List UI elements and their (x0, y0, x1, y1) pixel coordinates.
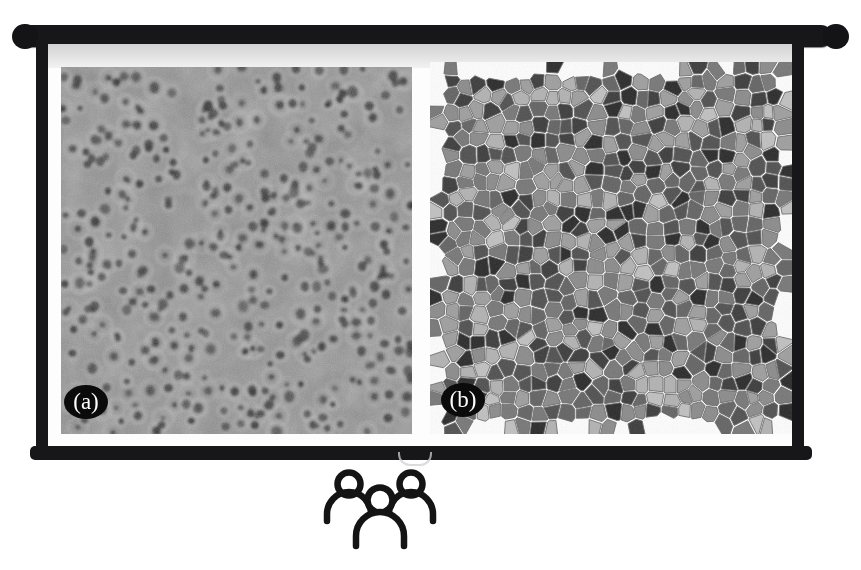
grain-cell (719, 174, 736, 190)
screen-rail-right (792, 40, 804, 453)
person-body-center (356, 512, 404, 546)
figure-panel-b (430, 62, 792, 434)
grain-cell (618, 274, 634, 291)
grain-cell (747, 230, 762, 244)
grain-cell (780, 177, 792, 192)
voronoi-grain-map-b (430, 62, 792, 434)
screen-pull-handle[interactable] (398, 452, 432, 466)
grain-cell (489, 403, 500, 418)
panel-label-a: (a) (64, 385, 108, 419)
grain-cell (664, 375, 676, 393)
grain-cell (515, 390, 529, 407)
grain-cell (590, 208, 605, 219)
grain-cell (679, 403, 691, 418)
grain-cell (747, 217, 762, 232)
screen-roller-cap-right (823, 24, 849, 49)
grain-cell (486, 329, 500, 348)
grain-cell (516, 274, 530, 289)
grain-cell (602, 176, 620, 193)
grain-cell (605, 118, 619, 135)
grain-cell (516, 262, 530, 274)
grain-cell (531, 133, 545, 149)
grain-cell (545, 75, 561, 90)
grain-cell (709, 273, 722, 290)
grain-cell (518, 306, 530, 323)
grain-cell (649, 376, 663, 392)
grain-cell (751, 92, 767, 106)
grain-cell (764, 104, 773, 119)
grain-cell (637, 91, 648, 108)
grain-cell (646, 165, 662, 179)
grain-cell (444, 62, 457, 75)
grain-cell (473, 323, 488, 335)
grain-cell (649, 336, 663, 349)
grain-cell (487, 301, 504, 317)
grain-cell (750, 349, 761, 365)
panel-label-b: (b) (441, 383, 485, 417)
grain-cell (574, 260, 587, 272)
grain-cell (752, 119, 763, 132)
figure-panel-a (61, 67, 412, 434)
grain-cell (531, 289, 547, 309)
grain-cell (751, 107, 762, 119)
grain-cell (692, 76, 704, 88)
grain-cell (587, 275, 603, 290)
grain-cell (733, 201, 748, 216)
grain-cell (443, 177, 458, 194)
grain-cell (560, 119, 571, 133)
grain-cell (648, 91, 660, 107)
grain-cell (504, 231, 519, 245)
grain-cell (489, 148, 502, 160)
grain-cell (749, 203, 763, 219)
grain-cell (647, 236, 664, 249)
screenshot-root: (a) (b) (0, 0, 861, 570)
grain-cell (710, 377, 722, 390)
three-people-icon (318, 468, 448, 558)
grain-cell (703, 389, 719, 406)
grain-cell (577, 192, 592, 207)
grain-cell (502, 404, 518, 419)
grain-cell (665, 233, 681, 245)
grain-cell (721, 278, 737, 293)
grain-cell (763, 119, 775, 131)
projector-screen: (a) (b) (0, 0, 861, 480)
grain-cell (530, 274, 545, 289)
grain-cell (516, 180, 536, 194)
grain-cell (472, 348, 485, 363)
grain-cell (500, 392, 515, 403)
screen-roller-cap-left (12, 24, 38, 49)
grain-cell (735, 90, 751, 105)
grain-cell (533, 117, 549, 132)
grain-cell (515, 289, 532, 307)
grain-cell (647, 222, 663, 235)
grain-cell (477, 278, 487, 291)
grain-cell (548, 120, 561, 134)
grain-cell (473, 292, 490, 305)
grain-cell (546, 91, 558, 105)
grain-cell (489, 315, 508, 330)
grain-cell (732, 217, 748, 232)
grain-cell (573, 307, 588, 319)
grain-cell (546, 133, 559, 147)
grain-cell (460, 145, 476, 164)
grain-cell (561, 192, 576, 207)
grain-cell (591, 189, 603, 207)
grain-cell (629, 219, 646, 234)
micrograph-image-a (61, 67, 412, 434)
grain-cell (605, 165, 623, 177)
grain-cell (558, 104, 573, 119)
grain-cell (506, 246, 519, 264)
screen-rail-left (36, 40, 48, 453)
grain-cell (680, 219, 696, 235)
grain-cell (706, 291, 718, 307)
grain-cell (504, 135, 519, 147)
grain-cell (766, 162, 781, 174)
grain-cell (664, 394, 681, 407)
grain-cell (633, 303, 649, 318)
